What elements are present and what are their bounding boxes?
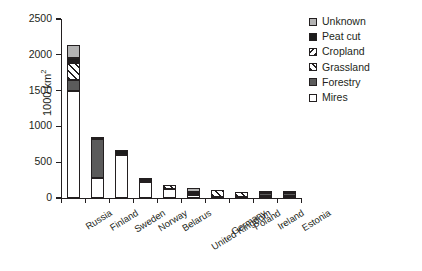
bar-segment-peat-cut [283,191,296,193]
legend-swatch-icon [309,33,317,41]
x-axis-tick [229,198,230,203]
bar-germany[interactable] [211,19,224,198]
y-axis-tick-label: 2500 [12,13,52,23]
bar-segment-grassland [211,190,224,197]
bar-segment-mires [115,155,128,198]
x-axis-tick [277,198,278,203]
chart-legend: UnknownPeat cutCroplandGrasslandForestry… [309,14,370,105]
bar-segment-forestry [283,193,296,196]
legend-swatch-icon [309,48,317,56]
x-axis-tick [133,198,134,203]
legend-item-mires[interactable]: Mires [309,90,370,105]
bar-segment-cropland [67,61,80,64]
bar-poland[interactable] [235,19,248,198]
bar-segment-peat-cut [259,191,272,193]
bar-segment-grassland [163,185,176,189]
x-axis-tick [109,198,110,203]
legend-item-unknown[interactable]: Unknown [309,14,370,29]
x-axis-tick [85,198,86,203]
bar-sweden[interactable] [115,19,128,198]
chart-container: 1000 km2 05001000150020002500 RussiaFinl… [0,0,422,271]
bar-segment-peat-cut [67,58,80,61]
bar-segment-cropland [139,180,152,182]
bars-area [61,19,301,198]
bar-segment-mires [139,182,152,198]
legend-label: Unknown [322,16,366,27]
x-axis-tick [301,198,302,203]
bar-estonia[interactable] [283,19,296,198]
bar-segment-unknown [67,45,80,58]
bar-norway[interactable] [139,19,152,198]
bar-segment-forestry [187,193,200,195]
x-axis-tick [205,198,206,203]
y-axis-title-superscript: 2 [39,70,48,74]
y-axis-tick-label: 2000 [12,49,52,59]
legend-item-cropland[interactable]: Cropland [309,44,370,59]
bar-segment-mires [259,196,272,198]
bar-segment-forestry [67,80,80,91]
legend-label: Cropland [322,46,365,57]
y-axis-tick-label: 0 [12,192,52,202]
y-axis-tick-label: 1000 [12,120,52,130]
bar-finland[interactable] [91,19,104,198]
x-axis-label-russia: Russia [83,207,113,232]
bar-segment-peat-cut [115,150,128,155]
legend-label: Mires [322,92,348,103]
bar-united-kingdom[interactable] [187,19,200,198]
legend-label: Forestry [322,77,361,88]
legend-item-peat-cut[interactable]: Peat cut [309,29,370,44]
legend-item-grassland[interactable]: Grassland [309,60,370,75]
legend-swatch-icon [309,63,317,71]
x-axis-tick [157,198,158,203]
bar-ireland[interactable] [259,19,272,198]
bar-segment-mires [67,91,80,198]
legend-swatch-icon [309,18,317,26]
bar-segment-mires [187,195,200,198]
bar-segment-mires [163,189,176,198]
bar-segment-mires [91,178,104,198]
bar-belarus[interactable] [163,19,176,198]
bar-segment-unknown [187,188,200,192]
bar-segment-forestry [259,193,272,196]
x-axis-label-estonia: Estonia [300,207,333,233]
bar-segment-peat-cut [139,178,152,180]
legend-label: Grassland [322,62,370,73]
x-axis-label-ireland: Ireland [275,207,305,232]
legend-item-forestry[interactable]: Forestry [309,75,370,90]
bar-segment-grassland [235,192,248,197]
bar-segment-forestry [91,139,104,178]
bar-segment-mires [283,196,296,198]
legend-swatch-icon [309,94,317,102]
bar-segment-peat-cut [91,137,104,139]
bar-segment-grassland [67,63,80,79]
x-axis-tick [253,198,254,203]
x-axis-tick [61,198,62,203]
y-axis-tick-label: 1500 [12,85,52,95]
legend-label: Peat cut [322,31,361,42]
legend-swatch-icon [309,78,317,86]
x-axis-tick [181,198,182,203]
bar-russia[interactable] [67,19,80,198]
y-axis-tick-label: 500 [12,156,52,166]
